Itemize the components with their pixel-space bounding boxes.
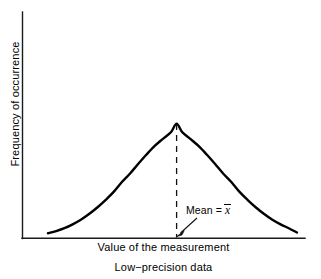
distribution-plot bbox=[0, 0, 321, 279]
mean-arrow-head bbox=[177, 231, 184, 237]
figure-caption: Low−precision data bbox=[22, 261, 305, 273]
overbar-glyph bbox=[224, 204, 230, 205]
mean-arrow-shaft bbox=[181, 218, 198, 233]
mean-annotation-label: Mean = x bbox=[186, 203, 230, 216]
x-axis-label: Value of the measurement bbox=[22, 241, 305, 253]
mean-variable-xbar: x bbox=[225, 203, 230, 216]
y-axis-label: Frequency of occurrence bbox=[7, 0, 23, 217]
figure-low-precision-data: Frequency of occurrence Value of the mea… bbox=[0, 0, 321, 279]
mean-variable-letter: x bbox=[225, 204, 230, 216]
distribution-curve bbox=[48, 124, 297, 234]
mean-annotation-prefix: Mean = bbox=[186, 204, 225, 216]
